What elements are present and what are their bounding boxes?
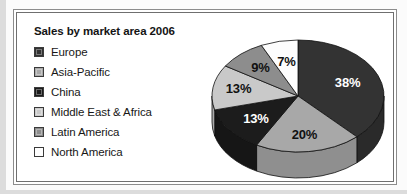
legend-item: North America — [34, 142, 209, 162]
legend-item: Europe — [34, 42, 209, 62]
legend-item: Asia-Pacific — [34, 62, 209, 82]
legend-item-label: China — [51, 86, 81, 98]
pie-slice-value-label: 13% — [226, 81, 252, 96]
legend-swatch-icon — [34, 107, 44, 117]
pie-slice-value-label: 20% — [292, 127, 318, 142]
legend-swatch-icon — [34, 67, 44, 77]
page-title: Sales by market area 2006 — [34, 25, 175, 37]
pie-chart-svg: 38%20%13%13%9%7% — [210, 32, 402, 184]
legend-swatch-icon — [34, 127, 44, 137]
legend-item-label: North America — [51, 146, 123, 158]
chart-legend: EuropeAsia-PacificChinaMiddle East & Afr… — [34, 42, 209, 162]
legend-item-label: Latin America — [51, 126, 119, 138]
legend-item-label: Asia-Pacific — [51, 66, 110, 78]
legend-item-label: Europe — [51, 46, 87, 58]
pie-slice-value-label: 9% — [251, 60, 270, 75]
pie-slice-value-label: 38% — [335, 75, 361, 90]
legend-swatch-icon — [34, 87, 44, 97]
legend-item: Latin America — [34, 122, 209, 142]
pie-chart: 38%20%13%13%9%7% — [210, 32, 402, 184]
legend-item-label: Middle East & Africa — [51, 106, 152, 118]
pie-slice-value-label: 13% — [243, 111, 269, 126]
legend-item: China — [34, 82, 209, 102]
pie-slice-value-label: 7% — [277, 54, 296, 69]
figure-frame: Sales by market area 2006 EuropeAsia-Pac… — [13, 9, 397, 185]
legend-swatch-icon — [34, 47, 44, 57]
legend-item: Middle East & Africa — [34, 102, 209, 122]
legend-swatch-icon — [34, 147, 44, 157]
